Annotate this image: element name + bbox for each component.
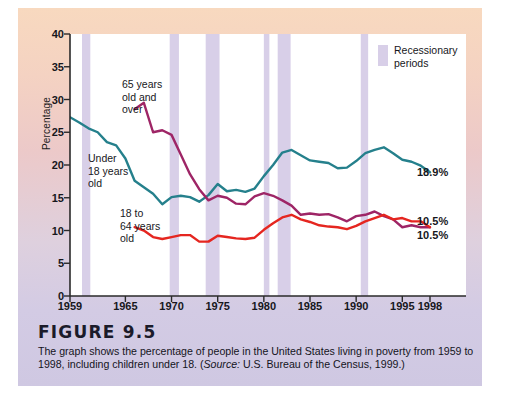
legend-label: Recessionary periods — [394, 44, 458, 69]
end-label-under-18: 18.9% — [417, 166, 448, 178]
x-axis-tick-label: 1975 — [195, 300, 241, 312]
adult-label-line3: old — [120, 232, 160, 245]
x-axis-tick-label: 1965 — [102, 300, 148, 312]
x-axis-tick-label: 1990 — [333, 300, 379, 312]
x-axis-tick-label: 1959 — [47, 300, 93, 312]
caption-line-2b: U.S. Bureau of the Census, 1999.) — [240, 358, 405, 370]
legend: Recessionary periods — [378, 44, 458, 69]
over65-label-line1: 65 years — [122, 78, 162, 91]
end-label-18-to-64: 10.5% — [417, 229, 448, 241]
end-label-over-65: 10.5% — [417, 215, 448, 227]
series-label-over-65: 65 years old and over — [122, 78, 162, 116]
caption-source-word: Source: — [204, 358, 241, 370]
x-axis-tick-label: 1980 — [241, 300, 287, 312]
recession-band-swatch-icon — [378, 45, 388, 66]
under18-label-line1: Under — [88, 152, 128, 165]
over65-label-line2: old and — [122, 91, 162, 104]
under18-label-line3: old — [88, 177, 128, 190]
series-label-under-18: Under 18 years old — [88, 152, 128, 190]
x-axis-tick-label: 1985 — [287, 300, 333, 312]
legend-label-line2: periods — [394, 57, 458, 70]
under18-label-line2: 18 years — [88, 165, 128, 178]
figure-caption-body: The graph shows the percentage of people… — [38, 345, 474, 372]
caption-line-1: The graph shows the percentage of people… — [38, 345, 435, 357]
x-axis-tick-label: 1970 — [149, 300, 195, 312]
over65-label-line3: over — [122, 103, 162, 116]
x-axis-tick-label: 1998 — [407, 300, 453, 312]
figure-container: Percentage 0510152025303540 195919651970… — [0, 0, 506, 394]
x-axis-tick-labels: 195919651970197519801985199019951998 — [70, 300, 470, 318]
figure-caption-heading: FIGURE 9.5 — [38, 322, 474, 342]
series-label-18-to-64: 18 to 64 years old — [120, 207, 160, 245]
legend-label-line1: Recessionary — [394, 44, 458, 57]
figure-caption: FIGURE 9.5 The graph shows the percentag… — [38, 322, 474, 372]
adult-label-line1: 18 to — [120, 207, 160, 220]
adult-label-line2: 64 years — [120, 220, 160, 233]
